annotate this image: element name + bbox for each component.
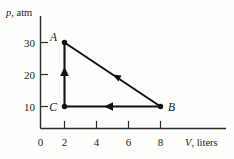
vertex-labels-group: A B C (49, 31, 175, 113)
arrow-head-up-icon (60, 67, 69, 76)
y-axis-ticks (41, 43, 49, 107)
y-tick-label-10: 10 (24, 101, 36, 113)
y-axis-label-unit: , atm (11, 7, 32, 18)
vertex-label-c: C (49, 101, 57, 113)
x-axis-label-unit: , liters (191, 137, 217, 148)
x-tick-label-0: 0 (38, 136, 44, 148)
vertex-dot-c (62, 104, 67, 109)
arrow-head-left-icon (104, 102, 113, 110)
vertex-label-b: B (168, 101, 175, 113)
x-tick-label-6: 6 (126, 136, 132, 148)
vertex-dot-b (158, 104, 163, 109)
y-tick-labels: 30 20 10 (24, 37, 36, 113)
x-tick-labels: 0 2 4 6 8 (38, 136, 164, 148)
x-axis-label: V, liters (185, 137, 218, 148)
x-axis-ticks (65, 121, 161, 129)
y-tick-label-30: 30 (24, 37, 36, 49)
vertex-dot-a (62, 40, 67, 45)
axes-group (41, 16, 227, 129)
x-tick-label-4: 4 (94, 136, 100, 148)
x-tick-label-8: 8 (158, 136, 164, 148)
axis-titles: p, atm V, liters (5, 7, 218, 148)
vertex-label-a: A (49, 31, 58, 43)
pv-diagram-figure: 30 20 10 0 2 4 6 8 p, atm V, liters (0, 0, 234, 159)
y-axis-label: p, atm (5, 7, 32, 18)
pv-diagram-svg: 30 20 10 0 2 4 6 8 p, atm V, liters (0, 0, 234, 159)
x-tick-label-2: 2 (62, 136, 68, 148)
y-tick-label-20: 20 (24, 69, 36, 81)
